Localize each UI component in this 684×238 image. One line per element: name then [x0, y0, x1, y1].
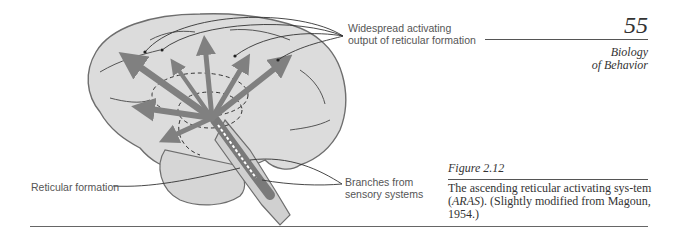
label-reticular-formation: Reticular formation — [31, 181, 119, 193]
figure-caption: The ascending reticular activating sys-t… — [448, 182, 658, 221]
label-widespread-output: Widespread activating output of reticula… — [348, 22, 478, 46]
caption-rule — [448, 179, 648, 180]
running-head: Biology of Behavior — [592, 46, 648, 72]
figure-label: Figure 2.12 — [448, 161, 504, 176]
cerebrum-shape — [88, 14, 346, 174]
header-rule — [485, 39, 648, 40]
label-sensory-branches: Branches from sensory systems — [345, 176, 445, 200]
caption-abbrev: ARAS — [452, 194, 480, 208]
running-head-line2: of Behavior — [592, 59, 648, 72]
page-number: 55 — [624, 12, 648, 39]
footer-rule — [30, 226, 648, 227]
